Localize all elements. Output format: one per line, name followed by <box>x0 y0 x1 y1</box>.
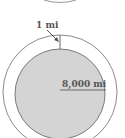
earth-rope-diagram: 1 mi 8,000 mi <box>0 0 125 138</box>
top-partial-arc <box>44 0 76 3</box>
radius-label: 8,000 mi <box>62 79 107 90</box>
inner-circle-earth <box>15 49 105 138</box>
gap-label: 1 mi <box>36 20 59 30</box>
